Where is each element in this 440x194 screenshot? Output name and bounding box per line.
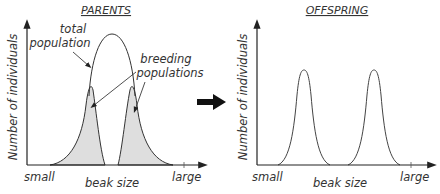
offspring-right-curve xyxy=(348,70,400,165)
parents-panel: PARENTS total population breeding popula… xyxy=(6,4,204,190)
offspring-title: OFFSPRING xyxy=(306,4,369,17)
offspring-y-axis-label: Number of individuals xyxy=(236,34,250,160)
parents-title: PARENTS xyxy=(81,4,131,17)
offspring-x-axis-label: beak size xyxy=(313,176,367,190)
total-population-pointer xyxy=(73,52,89,66)
total-label-line2: population xyxy=(28,36,90,50)
diagram: PARENTS total population breeding popula… xyxy=(0,0,440,194)
parents-x-axis-label: beak size xyxy=(85,176,139,190)
total-label-line1: total xyxy=(60,22,87,36)
breeding-population-left-curve xyxy=(50,86,105,165)
breeding-right-pointer xyxy=(135,82,145,110)
breeding-label-line1: breeding xyxy=(140,52,191,66)
offspring-x-max-label: large xyxy=(400,170,429,184)
parents-x-max-label: large xyxy=(172,170,201,184)
right-arrow-icon xyxy=(197,94,226,110)
offspring-panel: OFFSPRING Number of individuals small be… xyxy=(236,4,432,190)
offspring-left-curve xyxy=(278,70,330,165)
offspring-x-min-label: small xyxy=(252,170,283,184)
parents-x-min-label: small xyxy=(24,170,55,184)
breeding-population-right-curve xyxy=(118,86,173,165)
total-population-curve xyxy=(89,34,135,96)
parents-y-axis-label: Number of individuals xyxy=(6,34,20,160)
breeding-label-line2: populations xyxy=(135,66,203,80)
